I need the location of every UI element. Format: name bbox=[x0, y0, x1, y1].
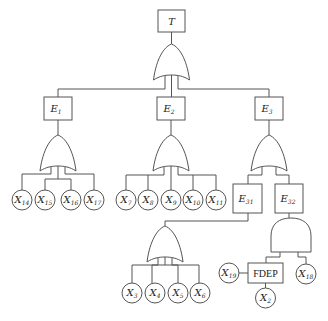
basic-event-X8: X8 bbox=[138, 190, 158, 210]
basic-event-X4: X4 bbox=[145, 283, 165, 303]
basic-event-X16: X16 bbox=[61, 190, 81, 210]
basic-event-X9: X9 bbox=[161, 190, 181, 210]
event-E32: E32 bbox=[275, 184, 303, 213]
basic-event-X18: X18 bbox=[296, 264, 316, 284]
fdep-gate: FDEP bbox=[248, 263, 283, 283]
basic-event-X2: X2 bbox=[256, 288, 276, 308]
or-gate-E3 bbox=[251, 135, 287, 171]
basic-event-X14: X14 bbox=[12, 190, 32, 210]
or-gate-T bbox=[154, 44, 190, 80]
or-gate-E2 bbox=[153, 135, 189, 171]
event-E1: E1 bbox=[44, 97, 72, 120]
basic-event-X11: X11 bbox=[206, 190, 226, 210]
and-gate-E32 bbox=[271, 218, 311, 252]
basic-event-X6: X6 bbox=[190, 283, 210, 303]
basic-event-X15: X15 bbox=[35, 190, 55, 210]
basic-event-X7: X7 bbox=[116, 190, 136, 210]
basic-event-X3: X3 bbox=[122, 283, 142, 303]
fault-tree-diagram: T E1 X14 X15 X16 X17 E2 bbox=[0, 0, 328, 321]
basic-event-X5: X5 bbox=[168, 283, 188, 303]
basic-event-X10: X10 bbox=[183, 190, 203, 210]
svg-text:FDEP: FDEP bbox=[253, 268, 278, 279]
basic-event-X19: X19 bbox=[219, 263, 239, 283]
or-gate-E1 bbox=[40, 135, 76, 171]
top-event-T: T bbox=[158, 10, 185, 32]
basic-event-X17: X17 bbox=[84, 190, 104, 210]
or-gate-E31 bbox=[147, 226, 183, 262]
event-E31: E31 bbox=[233, 184, 262, 213]
event-E3: E3 bbox=[255, 97, 283, 120]
event-E2: E2 bbox=[157, 97, 185, 120]
